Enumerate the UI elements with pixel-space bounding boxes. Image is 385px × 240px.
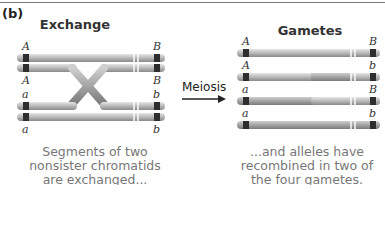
caption-line: are exchanged... [20, 173, 170, 185]
chromatid-1 [17, 54, 165, 62]
allele-label: a [22, 123, 29, 136]
caption-line: ...and alleles have [232, 145, 382, 159]
caption-line: Segments of two [20, 145, 170, 159]
gamete-3 [237, 97, 380, 105]
allele-label: a [242, 107, 249, 120]
allele-label: b [369, 107, 376, 120]
gamete-4 [237, 121, 380, 129]
allele-label: A [242, 59, 250, 72]
allele-label: a [22, 88, 29, 101]
meiosis-arrow [182, 95, 226, 103]
allele-label: B [153, 74, 161, 87]
allele-label: A [22, 40, 30, 53]
chromatid-3 [17, 102, 165, 110]
allele-label: B [153, 40, 161, 53]
meiosis-label: Meiosis [182, 80, 226, 94]
chromatid-4 [17, 113, 165, 121]
exchange-caption: Segments of two nonsister chromatids are… [20, 145, 170, 185]
caption-line: nonsister chromatids [20, 159, 170, 173]
allele-label: A [22, 74, 30, 87]
allele-label: A [242, 35, 250, 48]
allele-label: a [242, 83, 249, 96]
allele-label: B [369, 35, 377, 48]
allele-label: b [153, 88, 160, 101]
gamete-1 [237, 49, 380, 57]
allele-label: B [369, 83, 377, 96]
allele-label: b [153, 123, 160, 136]
caption-line: recombined in two of [232, 159, 382, 173]
allele-label: b [369, 59, 376, 72]
caption-line: the four gametes. [232, 173, 382, 185]
gametes-caption: ...and alleles have recombined in two of… [232, 145, 382, 185]
gamete-2 [237, 73, 380, 81]
chromatid-2 [17, 64, 165, 106]
